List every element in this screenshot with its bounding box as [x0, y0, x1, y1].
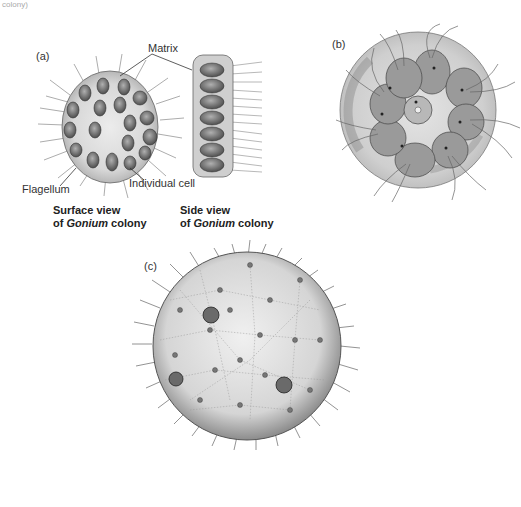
volvox-colony-view	[132, 240, 360, 450]
caption-surface-line2: of Gonium colony	[53, 217, 147, 230]
gonium-side-view	[193, 55, 262, 177]
label-flagellum: Flagellum	[22, 183, 70, 195]
caption-side-view: Side view of Gonium colony	[180, 204, 274, 230]
caption-side-post: colony	[235, 217, 274, 229]
caption-side-pre: of	[180, 217, 193, 229]
illustration-canvas	[0, 0, 521, 507]
label-individual-cell: Individual cell	[129, 177, 195, 189]
pandorina-colony-view	[336, 24, 520, 202]
caption-surface-genus: Gonium	[66, 217, 108, 229]
caption-surface-line1: Surface view	[53, 204, 147, 217]
caption-surface-post: colony	[108, 217, 147, 229]
label-matrix: Matrix	[148, 42, 178, 54]
caption-surface-pre: of	[53, 217, 66, 229]
panel-label-b: (b)	[332, 38, 345, 50]
caption-side-line2: of Gonium colony	[180, 217, 274, 230]
panel-label-a: (a)	[36, 50, 49, 62]
caption-side-line1: Side view	[180, 204, 274, 217]
panel-label-c: (c)	[144, 260, 157, 272]
caption-side-genus: Gonium	[193, 217, 235, 229]
caption-surface-view: Surface view of Gonium colony	[53, 204, 147, 230]
